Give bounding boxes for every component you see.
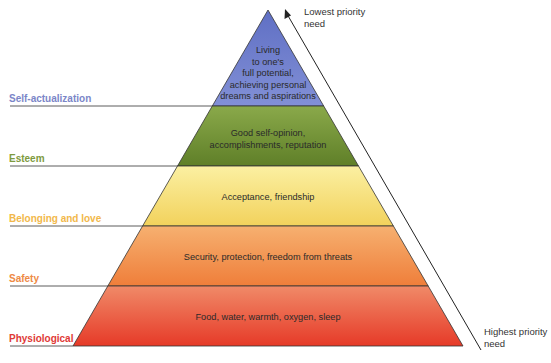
lowest-priority-note: Lowest priority need xyxy=(304,6,365,30)
text-line: achieving personal xyxy=(208,80,328,92)
text-line: Lowest priority xyxy=(304,6,365,18)
text-line: Acceptance, friendship xyxy=(143,191,393,203)
tier-text-physiological: Food, water, warmth, oxygen, sleep xyxy=(73,311,463,323)
text-line: accomplishments, reputation xyxy=(178,139,358,151)
text-line: Security, protection, freedom from threa… xyxy=(108,251,428,263)
text-line: Living xyxy=(208,45,328,57)
tier-text-esteem: Good self-opinion, accomplishments, repu… xyxy=(178,127,358,151)
tier-text-self-actualization: Living to one's full potential, achievin… xyxy=(208,45,328,103)
highest-priority-note: Highest priority need xyxy=(484,326,547,350)
level-label-physiological: Physiological xyxy=(9,333,73,344)
tier-text-safety: Security, protection, freedom from threa… xyxy=(108,251,428,263)
text-line: need xyxy=(304,18,365,30)
level-label-self-actualization: Self-actualization xyxy=(9,93,91,104)
text-line: to one's xyxy=(208,57,328,69)
text-line: dreams and aspirations xyxy=(208,91,328,103)
level-label-esteem: Esteem xyxy=(9,153,45,164)
text-line: Good self-opinion, xyxy=(178,127,358,139)
level-label-safety: Safety xyxy=(9,273,39,284)
arrowhead-icon xyxy=(285,9,292,19)
text-line: need xyxy=(484,338,547,350)
text-line: full potential, xyxy=(208,68,328,80)
level-label-belonging: Belonging and love xyxy=(9,213,101,224)
text-line: Highest priority xyxy=(484,326,547,338)
text-line: Food, water, warmth, oxygen, sleep xyxy=(73,311,463,323)
tier-text-belonging: Acceptance, friendship xyxy=(143,191,393,203)
